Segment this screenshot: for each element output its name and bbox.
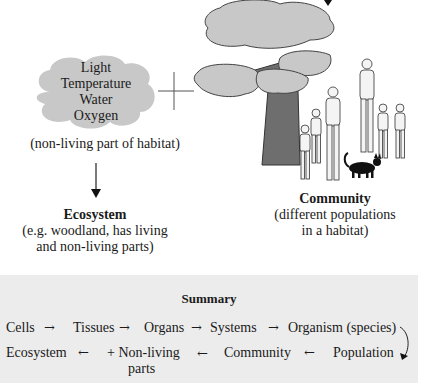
community-title: Community [260, 191, 410, 207]
curved-arrow-icon [398, 325, 414, 361]
summary-item-tissues: Tissues [73, 320, 115, 336]
summary-item-cells: Cells [6, 320, 35, 336]
summary-item-organs: Organs [144, 320, 184, 336]
ecosystem-desc-line1: (e.g. woodland, has living [0, 223, 190, 239]
arrow-down-icon [90, 163, 102, 199]
arrow-right-icon: → [191, 320, 202, 335]
summary-item-non-living-parts: parts [128, 361, 155, 377]
arrow-right-icon: → [268, 320, 279, 335]
ecosystem-desc-line2: and non-living parts) [0, 239, 190, 255]
arrow-left-icon: ← [304, 345, 315, 360]
non-living-caption: (non-living part of habitat) [10, 136, 200, 152]
arrow-right-icon: → [44, 320, 55, 335]
population-figures [288, 55, 420, 190]
cloud-line-temperature: Temperature [36, 76, 156, 92]
ecosystem-description: (e.g. woodland, has living and non-livin… [0, 223, 190, 255]
arrow-left-icon: ← [78, 345, 89, 360]
community-desc-line2: in a habitat) [250, 223, 420, 239]
arrow-left-icon: ← [197, 346, 208, 361]
summary-item-ecosystem: Ecosystem [6, 345, 67, 361]
summary-item-systems: Systems [210, 320, 257, 336]
cloud-line-water: Water [36, 92, 156, 108]
cloud-line-oxygen: Oxygen [36, 108, 156, 124]
community-description: (different populations in a habitat) [250, 207, 420, 239]
summary-item-organism: Organism (species) [288, 320, 396, 336]
cloud-label: Light Temperature Water Oxygen [36, 60, 156, 124]
community-desc-line1: (different populations [250, 207, 420, 223]
ecosystem-title: Ecosystem [0, 207, 190, 223]
cloud-line-light: Light [36, 60, 156, 76]
summary-box: Summary Cells → Tissues → Organs → Syste… [0, 275, 418, 383]
summary-item-non-living: + Non-living [107, 345, 180, 361]
arrow-right-icon: → [119, 320, 130, 335]
summary-item-community: Community [224, 345, 291, 361]
summary-item-population: Population [333, 345, 394, 361]
summary-title: Summary [0, 291, 418, 307]
plus-icon [158, 72, 194, 110]
